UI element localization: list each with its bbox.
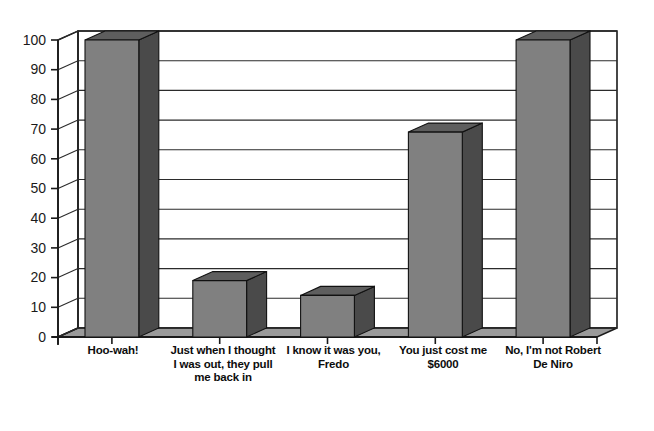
gridline-depth-10 (58, 298, 78, 307)
bar-0 (85, 31, 159, 337)
bar-4 (516, 31, 590, 337)
y-tick-label: 60 (30, 151, 46, 167)
gridline-depth-40 (58, 209, 78, 218)
y-tick-label: 100 (23, 32, 47, 48)
gridline-depth-70 (58, 120, 78, 129)
gridline-depth-100 (58, 31, 78, 40)
bar-3 (408, 123, 482, 337)
y-tick-label: 0 (38, 329, 46, 345)
y-tick-label: 40 (30, 210, 46, 226)
bar-front-face (408, 132, 462, 337)
gridline-depth-90 (58, 61, 78, 70)
bar-side-face (139, 31, 159, 337)
bar-side-face (247, 272, 267, 337)
bar-side-face (570, 31, 590, 337)
gridline-depth-60 (58, 150, 78, 159)
bar-front-face (301, 295, 355, 337)
y-tick-label: 10 (30, 299, 46, 315)
gridline-depth-50 (58, 180, 78, 189)
chart-container: 0102030405060708090100 Hoo-wah! Just whe… (0, 0, 654, 431)
gridline-depth-30 (58, 239, 78, 248)
category-label-0: Hoo-wah! (58, 344, 168, 358)
y-tick-label: 50 (30, 180, 46, 196)
category-label-3: You just cost me $6000 (387, 344, 499, 371)
gridline-depth-20 (58, 269, 78, 278)
bar-front-face (516, 40, 570, 337)
bar-2 (301, 286, 375, 337)
bar-side-face (462, 123, 482, 337)
category-label-2: I know it was you, Fredo (276, 344, 391, 371)
y-tick-label: 30 (30, 240, 46, 256)
bar-front-face (193, 281, 247, 337)
y-tick-label: 80 (30, 91, 46, 107)
bar-front-face (85, 40, 139, 337)
y-tick-label: 70 (30, 121, 46, 137)
y-tick-label: 20 (30, 269, 46, 285)
y-tick-label: 90 (30, 61, 46, 77)
bar-1 (193, 272, 267, 337)
category-label-1: Just when I thought I was out, they pull… (168, 344, 278, 385)
category-label-4: No, I'm not Robert De Niro (497, 344, 609, 371)
gridline-depth-80 (58, 90, 78, 99)
